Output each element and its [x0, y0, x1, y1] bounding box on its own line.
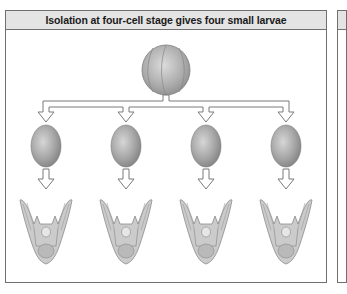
larva-4 — [260, 200, 312, 264]
four-cell-embryo — [142, 45, 190, 95]
larva-2 — [100, 200, 152, 264]
blastomere-3 — [191, 125, 221, 167]
larva-3 — [180, 200, 232, 264]
larva-1 — [20, 200, 72, 264]
blastomere-4 — [271, 125, 301, 167]
down-arrow-icon-3 — [198, 169, 214, 189]
down-arrow-icon-4 — [278, 169, 294, 189]
down-arrow-icon-2 — [118, 169, 134, 189]
down-arrow-icon-1 — [38, 169, 54, 189]
branch-connector — [38, 95, 294, 122]
blastomere-2 — [111, 125, 141, 167]
blastomere-1 — [31, 125, 61, 167]
